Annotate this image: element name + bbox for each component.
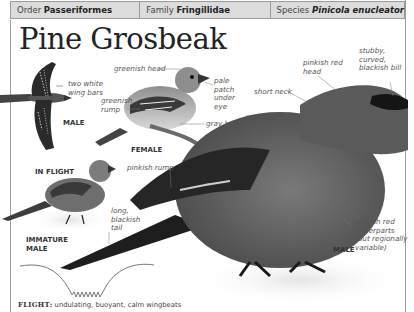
- annotation-wing-bars: two white wing bars: [68, 80, 103, 97]
- annotation-pale-patch: pale patch under eye: [214, 77, 235, 111]
- caption-flight-male: MALE: [63, 119, 85, 128]
- flight-male-bird-image: [0, 62, 72, 150]
- annotation-pinkish-rump: pinkish rump: [127, 164, 174, 173]
- annotation-long-tail: long, blackish tail: [111, 207, 140, 233]
- caption-female: FEMALE: [131, 146, 162, 155]
- annotation-gray-belly: gray belly: [206, 120, 242, 129]
- field-guide-page: Order Passeriformes Family Fringillidae …: [0, 0, 414, 312]
- caption-immature-male: IMMATURE MALE: [26, 236, 68, 254]
- caption-in-flight: IN FLIGHT: [35, 168, 74, 177]
- bird-illustrations: [0, 0, 414, 312]
- annotation-pinkish-underparts: pinkish red underparts (but regionally v…: [355, 218, 408, 252]
- caption-male: MALE: [333, 246, 355, 255]
- annotation-pinkish-red-head: pinkish red head: [303, 59, 343, 76]
- annotation-greenish-rump: greenish rump: [101, 97, 132, 114]
- flight-label: FLIGHT:: [18, 301, 52, 309]
- flight-text: undulating, buoyant, calm wingbeats: [55, 301, 182, 309]
- flight-description: FLIGHT: undulating, buoyant, calm wingbe…: [18, 301, 181, 309]
- annotation-stubby-bill: stubby, curved, blackish bill: [359, 47, 401, 73]
- annotation-greenish-head: greenish head: [114, 65, 165, 74]
- annotation-short-neck: short neck: [254, 88, 292, 97]
- flight-path-diagram: [20, 264, 154, 297]
